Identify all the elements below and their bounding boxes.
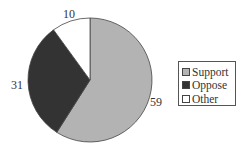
- label-support: 59: [150, 95, 162, 110]
- legend-label-oppose: Oppose: [192, 79, 227, 91]
- legend-swatch-oppose: [182, 81, 190, 89]
- legend-label-support: Support: [192, 66, 228, 78]
- legend-item-support: Support: [182, 65, 235, 79]
- label-other: 10: [63, 7, 75, 22]
- legend: Support Oppose Other: [178, 61, 236, 106]
- legend-label-other: Other: [192, 93, 218, 105]
- legend-swatch-other: [182, 95, 190, 103]
- legend-swatch-support: [182, 68, 190, 76]
- label-oppose: 31: [11, 78, 23, 93]
- legend-item-other: Other: [182, 92, 235, 106]
- legend-item-oppose: Oppose: [182, 79, 235, 93]
